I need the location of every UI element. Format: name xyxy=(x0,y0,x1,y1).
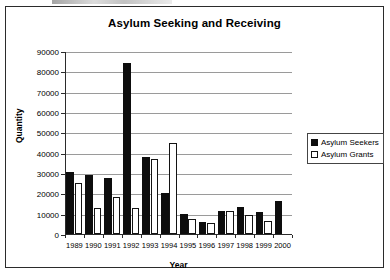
x-tick-mark xyxy=(235,235,236,238)
x-tick-mark xyxy=(292,235,293,238)
legend-item-asylum-seekers: Asylum Seekers xyxy=(311,136,379,148)
x-tick-mark xyxy=(179,235,180,238)
y-tick-label: 80000 xyxy=(37,68,59,77)
legend-label: Asylum Grants xyxy=(321,150,373,159)
y-tick-label: 0 xyxy=(55,231,59,240)
x-tick-label-1997: 1997 xyxy=(217,241,234,250)
y-tick-label: 40000 xyxy=(37,149,59,158)
scan-artifact-smudge xyxy=(52,0,172,4)
legend-swatch-outlined-white-square-icon xyxy=(311,151,318,158)
x-tick-label-1995: 1995 xyxy=(180,241,197,250)
x-tick-mark xyxy=(122,235,123,238)
x-tick-label-1999: 1999 xyxy=(255,241,272,250)
plot-area: 0100002000030000400005000060000700008000… xyxy=(65,52,292,235)
x-tick-mark xyxy=(254,235,255,238)
x-tick-mark xyxy=(160,235,161,238)
y-tick-label: 50000 xyxy=(37,129,59,138)
y-tick-label: 10000 xyxy=(37,210,59,219)
x-tick-mark xyxy=(216,235,217,238)
x-tick-label-1989: 1989 xyxy=(66,241,83,250)
x-axis-title: Year xyxy=(65,260,292,270)
bar-asylum-seekers-2000 xyxy=(275,201,283,234)
x-tick-label-1998: 1998 xyxy=(236,241,253,250)
y-tick-label: 70000 xyxy=(37,88,59,97)
x-tick-label-2000: 2000 xyxy=(274,241,291,250)
legend-label: Asylum Seekers xyxy=(321,138,379,147)
y-tick-label: 20000 xyxy=(37,190,59,199)
x-tick-label-1991: 1991 xyxy=(104,241,121,250)
bar-group-2000 xyxy=(65,51,292,234)
y-axis-line xyxy=(65,52,66,235)
x-tick-label-1996: 1996 xyxy=(199,241,216,250)
x-tick-mark xyxy=(141,235,142,238)
y-axis-title: Quantity xyxy=(14,109,24,143)
x-tick-mark xyxy=(65,235,66,238)
y-tick-label: 30000 xyxy=(37,170,59,179)
legend-swatch-filled-black-square-icon xyxy=(311,139,318,146)
x-tick-mark xyxy=(273,235,274,238)
legend-item-asylum-grants: Asylum Grants xyxy=(311,148,379,160)
chart-title: Asylum Seeking and Receiving xyxy=(6,17,383,29)
x-tick-mark xyxy=(103,235,104,238)
x-tick-label-1993: 1993 xyxy=(142,241,159,250)
y-tick-label: 60000 xyxy=(37,109,59,118)
x-tick-label-1992: 1992 xyxy=(123,241,140,250)
chart-legend: Asylum Seekers Asylum Grants xyxy=(307,133,384,164)
x-tick-label-1994: 1994 xyxy=(161,241,178,250)
x-axis-line xyxy=(65,234,292,235)
x-tick-mark xyxy=(197,235,198,238)
x-axis-tick-labels: 1989199019911992199319941995199619971998… xyxy=(65,241,292,253)
x-tick-label-1990: 1990 xyxy=(85,241,102,250)
chart-frame: Asylum Seeking and Receiving Quantity 01… xyxy=(5,6,384,268)
x-tick-mark xyxy=(84,235,85,238)
y-tick-label: 90000 xyxy=(37,48,59,57)
